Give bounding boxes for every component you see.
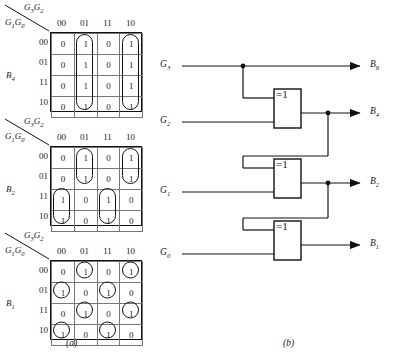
input-label-g3: G3 <box>160 59 170 71</box>
kmap-b4-output-label: B4 <box>6 70 15 82</box>
kmap-b2-row-1: 01 <box>26 166 48 186</box>
kmap-b1-cell-3-3: 0 <box>120 325 143 346</box>
xor-gate-1-symbol: =1 <box>276 88 288 100</box>
kmap-b1-grid: 0101101001011010 <box>50 260 142 340</box>
kmap-b1-cell-0-2: 0 <box>97 262 120 283</box>
kmap-b4-row: 0101 <box>52 97 143 118</box>
kmap-b4-top-vars: G3G2 <box>24 2 44 14</box>
kmap-b4-cell-3-0: 0 <box>52 97 75 118</box>
kmap-b4-col-0: 00 <box>50 18 73 28</box>
kmap-b1-output-label: B1 <box>6 298 15 310</box>
kmap-b4-grid: 0101010101010101 <box>50 32 142 112</box>
kmap-b1-row-3: 10 <box>26 320 48 340</box>
kmap-b2-cell-0-2: 0 <box>97 148 120 169</box>
kmap-b4-col-1: 01 <box>73 18 96 28</box>
figure-root: G3G2 G1G0 00 01 11 10 00 01 11 10 B4 010… <box>0 0 404 360</box>
kmap-b2-cell-1-2: 0 <box>97 169 120 190</box>
kmap-b1-column-headers: 00 01 11 10 <box>50 246 142 256</box>
input-label-g0: G0 <box>160 247 170 259</box>
kmap-b4-row: 0101 <box>52 55 143 76</box>
kmap-b4-cell-2-2: 0 <box>97 76 120 97</box>
kmap-b2-cell-3-2: 1 <box>97 211 120 232</box>
kmap-b4-cell-0-3: 1 <box>120 34 143 55</box>
caption-b: (b) <box>283 338 294 348</box>
kmap-b1-cell-2-3: 1 <box>120 304 143 325</box>
kmap-b4-cell-2-3: 1 <box>120 76 143 97</box>
kmap-b4-row-0: 00 <box>26 32 48 52</box>
kmap-b2-corner-header: G3G2 G1G0 <box>4 118 50 146</box>
kmap-b1-col-2: 11 <box>96 246 119 256</box>
kmap-b1-cell-3-1: 0 <box>74 325 97 346</box>
kmap-b4-col-2: 11 <box>96 18 119 28</box>
kmap-b4-cell-0-2: 0 <box>97 34 120 55</box>
kmap-b1-col-3: 10 <box>119 246 142 256</box>
kmap-b4-cell-1-3: 1 <box>120 55 143 76</box>
kmap-b2-output-label: B2 <box>6 184 15 196</box>
kmap-b1-cell-1-2: 1 <box>97 283 120 304</box>
kmap-b2-row-3: 10 <box>26 206 48 226</box>
kmap-b1-cell-0-1: 1 <box>74 262 97 283</box>
kmap-b2-cell-3-3: 0 <box>120 211 143 232</box>
kmap-b4-cell-2-1: 1 <box>74 76 97 97</box>
kmap-b2-cell-1-1: 1 <box>74 169 97 190</box>
kmap-b4-cell-0-1: 1 <box>74 34 97 55</box>
kmap-b4-row-headers: 00 01 11 10 <box>26 32 48 112</box>
kmap-b1-cell-1-3: 0 <box>120 283 143 304</box>
kmap-b2-cell-2-0: 1 <box>52 190 75 211</box>
kmap-b2-top-vars: G3G2 <box>24 116 44 128</box>
kmap-b1-cell-3-2: 1 <box>97 325 120 346</box>
kmap-b4-cell-1-2: 0 <box>97 55 120 76</box>
kmap-b2-row: 1010 <box>52 190 143 211</box>
kmap-b4-row: 0101 <box>52 34 143 55</box>
output-label-b1: B1 <box>370 238 379 250</box>
input-label-g2: G2 <box>160 115 170 127</box>
kmap-b1-cell-2-0: 0 <box>52 304 75 325</box>
kmap-b4-cell-2-0: 0 <box>52 76 75 97</box>
kmap-b2-row: 0101 <box>52 148 143 169</box>
kmap-b1-cell-2-1: 1 <box>74 304 97 325</box>
kmap-b2-cell-0-0: 0 <box>52 148 75 169</box>
kmap-b1-row: 1010 <box>52 283 143 304</box>
input-label-g1: G1 <box>160 185 170 197</box>
kmap-b1-top-vars: G3G2 <box>24 230 44 242</box>
junction-dot-b2 <box>326 181 331 186</box>
kmap-b2-cell-0-3: 1 <box>120 148 143 169</box>
kmap-b2-col-0: 00 <box>50 132 73 142</box>
kmap-b2-tbody: 0101010110101010 <box>52 148 143 232</box>
kmap-b1-cell-1-1: 0 <box>74 283 97 304</box>
kmap-b2-cell-3-1: 0 <box>74 211 97 232</box>
xor-gate-3-symbol: =1 <box>276 220 288 232</box>
kmap-b4-side-vars: G1G0 <box>5 17 25 29</box>
kmap-b1-cell-2-2: 0 <box>97 304 120 325</box>
kmap-b2-cell-1-3: 1 <box>120 169 143 190</box>
kmap-b1-cell-0-0: 0 <box>52 262 75 283</box>
kmap-b2-col-3: 10 <box>119 132 142 142</box>
kmap-b4-cell-1-1: 1 <box>74 55 97 76</box>
kmap-b2-col-1: 01 <box>73 132 96 142</box>
kmap-b4-cell-0-0: 0 <box>52 34 75 55</box>
kmap-b2-cell-0-1: 1 <box>74 148 97 169</box>
kmap-b4-cell-1-0: 0 <box>52 55 75 76</box>
kmap-b4-tbody: 0101010101010101 <box>52 34 143 118</box>
kmap-b4-cell-3-3: 1 <box>120 97 143 118</box>
junction-dot-g3 <box>241 64 246 69</box>
kmap-b4-row-3: 10 <box>26 92 48 112</box>
gray-to-binary-circuit: =1 =1 =1 G3 G2 G1 G0 B8 B4 B2 B1 <box>155 52 404 282</box>
kmap-b2-cell-2-3: 0 <box>120 190 143 211</box>
kmap-b2-cell-3-0: 1 <box>52 211 75 232</box>
kmap-b4-row-2: 11 <box>26 72 48 92</box>
kmap-b2-row: 1010 <box>52 211 143 232</box>
kmap-b4-cell-3-2: 0 <box>97 97 120 118</box>
kmap-b2-row: 0101 <box>52 169 143 190</box>
kmap-b1-row-headers: 00 01 11 10 <box>26 260 48 340</box>
kmap-b1-side-vars: G1G0 <box>5 245 25 257</box>
kmap-b4-corner-header: G3G2 G1G0 <box>4 4 50 32</box>
kmap-b4-row-1: 01 <box>26 52 48 72</box>
kmap-b2-col-2: 11 <box>96 132 119 142</box>
kmap-b4-column-headers: 00 01 11 10 <box>50 18 142 28</box>
kmap-b2-cell-1-0: 0 <box>52 169 75 190</box>
kmap-b4-col-3: 10 <box>119 18 142 28</box>
kmap-b1-row-2: 11 <box>26 300 48 320</box>
kmap-b1-tbody: 0101101001011010 <box>52 262 143 346</box>
kmap-b2-cell-2-2: 1 <box>97 190 120 211</box>
